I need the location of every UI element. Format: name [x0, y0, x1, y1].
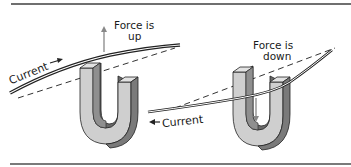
- right-dashed-field-line: [175, 48, 335, 108]
- diagram-frame: Current Force is up Current Force is dow…: [0, 0, 351, 167]
- left-force-label-line2: up: [128, 31, 141, 42]
- right-arrow-icon: [50, 58, 63, 63]
- left-arrow-icon: [149, 119, 160, 125]
- up-arrow-icon: [101, 26, 107, 52]
- left-horseshoe-magnet: [80, 63, 138, 148]
- right-force-label-line2: down: [263, 51, 291, 62]
- diagram-canvas: [0, 0, 351, 167]
- right-horseshoe-magnet: [233, 66, 290, 150]
